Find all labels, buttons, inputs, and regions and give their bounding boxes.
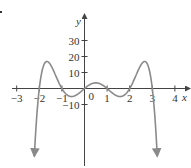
y-axis-label: y — [75, 15, 81, 27]
polynomial-chart: −3−2−11234302010−100xy — [0, 0, 191, 168]
y-tick-label: 10 — [69, 67, 81, 79]
polynomial-curve — [34, 61, 157, 156]
x-tick-label: 2 — [127, 92, 133, 104]
origin-label: 0 — [89, 90, 95, 102]
x-axis-label: x — [181, 91, 187, 103]
y-tick-label: −10 — [62, 99, 80, 111]
y-tick-label: 30 — [69, 35, 81, 47]
x-tick-label: 1 — [104, 92, 110, 104]
x-tick-label: 4 — [172, 92, 178, 104]
y-tick-label: 20 — [69, 51, 81, 63]
x-tick-label: −3 — [11, 92, 23, 104]
